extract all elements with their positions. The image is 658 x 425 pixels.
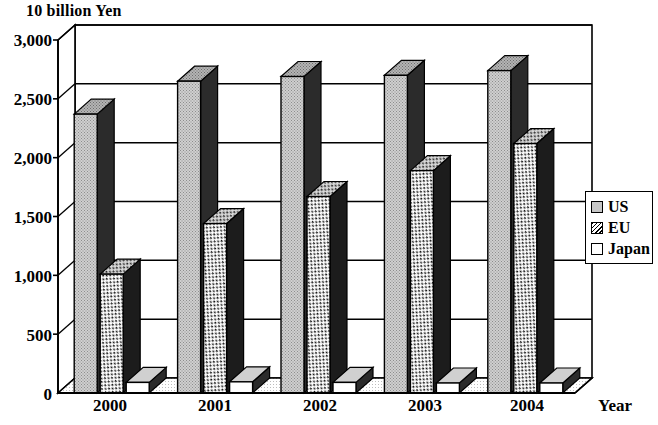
legend: US EU Japan [585, 191, 653, 264]
x-axis-label: Year [598, 396, 632, 416]
legend-label-us: US [608, 199, 628, 215]
x-tick-2003: 2003 [385, 396, 465, 416]
bar-chart: 10 billion Yen 3,000 2,500 2,000 1,500 1… [0, 0, 658, 425]
legend-swatch-japan-icon [591, 243, 603, 255]
legend-swatch-eu-icon [591, 222, 603, 234]
legend-item-us: US [591, 196, 648, 217]
plot-area [0, 0, 658, 425]
legend-label-japan: Japan [608, 241, 650, 257]
x-tick-2001: 2001 [175, 396, 255, 416]
legend-item-japan: Japan [591, 238, 648, 259]
x-tick-2002: 2002 [280, 396, 360, 416]
legend-label-eu: EU [608, 220, 630, 236]
legend-swatch-us-icon [591, 201, 603, 213]
x-tick-2004: 2004 [487, 396, 567, 416]
x-tick-2000: 2000 [70, 396, 150, 416]
legend-item-eu: EU [591, 217, 648, 238]
